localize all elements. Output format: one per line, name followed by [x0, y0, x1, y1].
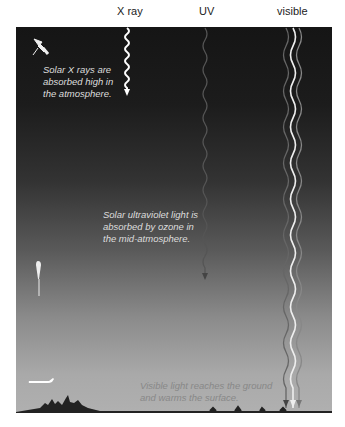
xray-wave	[125, 28, 129, 91]
uv-note: Solar ultraviolet light is absorbed by o…	[103, 209, 198, 245]
weather-balloon-icon	[36, 261, 41, 296]
visible-note: Visible light reaches the ground and war…	[140, 380, 272, 404]
visible-wave-right	[297, 28, 302, 408]
visible-wave-left	[284, 28, 289, 408]
visible-wave-center	[291, 28, 296, 408]
airplane-icon	[29, 378, 54, 383]
satellite-icon	[33, 39, 48, 55]
uv-wave	[203, 28, 207, 276]
xray-note: Solar X rays are absorbed high in the at…	[43, 64, 113, 100]
